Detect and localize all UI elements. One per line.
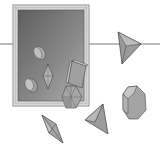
octagonal-prism-icon [123,86,146,119]
bipyramid-large-icon [42,115,63,143]
tetrahedron-bottom-icon [85,104,108,134]
diagram-canvas [0,0,160,145]
crystal-solids-illustration [0,0,160,145]
tetrahedron-top-icon [118,32,141,64]
